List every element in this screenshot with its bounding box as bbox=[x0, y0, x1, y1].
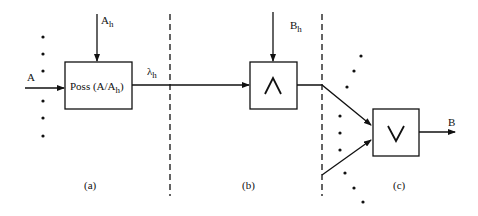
and-box bbox=[250, 62, 297, 109]
lambda-label: λh bbox=[147, 66, 157, 80]
input-a-label: A bbox=[27, 72, 35, 83]
poss-box-label: Poss (A/Ah) bbox=[70, 81, 124, 95]
caption-a: (a) bbox=[84, 180, 96, 191]
caption-b: (b) bbox=[242, 180, 255, 191]
or-box bbox=[373, 109, 419, 156]
and-output-line bbox=[297, 85, 371, 125]
input-ah-label: Ah bbox=[101, 15, 113, 29]
input-bh-label: Bh bbox=[290, 20, 302, 34]
ellipsis-dots-c bbox=[338, 54, 364, 203]
fuzzy-inference-diagram: A Ah Poss (A/Ah) λh Bh B (a) (b) (c) bbox=[0, 0, 478, 216]
or-lower-input-arrow bbox=[322, 140, 371, 175]
and-symbol-icon bbox=[265, 78, 281, 94]
output-b-label: B bbox=[448, 117, 455, 128]
ellipsis-dots-a bbox=[41, 35, 44, 137]
caption-c: (c) bbox=[393, 180, 405, 191]
or-symbol-icon bbox=[388, 126, 404, 141]
diagram-canvas bbox=[0, 0, 478, 216]
